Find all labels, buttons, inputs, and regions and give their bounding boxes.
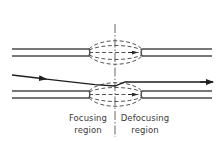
- focusing-label-line1: Focusing: [62, 112, 114, 124]
- particle-ray: [12, 75, 213, 86]
- defocusing-label-line1: Defocusing: [117, 112, 173, 124]
- top-lens-assembly: [12, 41, 212, 65]
- top-left-pipe: [12, 49, 90, 56]
- bottom-left-pipe: [12, 91, 90, 98]
- defocusing-region-label: Defocusing region: [117, 112, 173, 136]
- focusing-region-label: Focusing region: [62, 112, 114, 136]
- top-right-pipe: [141, 49, 212, 56]
- defocusing-label-line2: region: [117, 124, 173, 136]
- ray-path: [44, 79, 213, 86]
- diagram-canvas: Focusing region Defocusing region: [0, 0, 218, 141]
- bottom-right-pipe: [141, 91, 212, 98]
- ray-incoming-arrow: [12, 75, 46, 79]
- focusing-label-line2: region: [62, 124, 114, 136]
